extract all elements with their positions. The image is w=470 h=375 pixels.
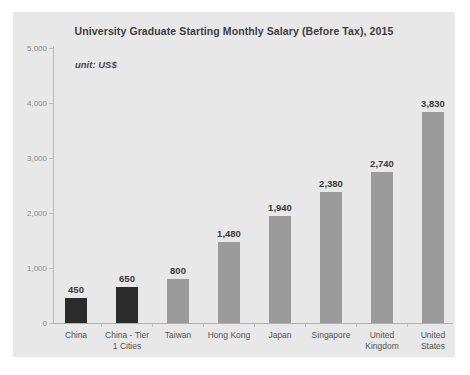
- bar-value-united-kingdom: 2,740: [352, 158, 412, 169]
- x-tick-mark: [152, 323, 153, 327]
- category-line: United: [401, 330, 465, 341]
- category-line: 1 Cities: [95, 341, 159, 352]
- y-tick-label: 0: [13, 319, 47, 328]
- y-tick-label: 5,000: [13, 44, 47, 53]
- bar-singapore[interactable]: [320, 192, 342, 323]
- x-tick-mark: [203, 323, 204, 327]
- category-label-united-states: United States: [401, 330, 465, 352]
- plot-area: 5,000 4,000 3,000 2,000 1,000 0: [53, 12, 455, 357]
- x-axis-line: [53, 323, 453, 324]
- chart-panel: University Graduate Starting Monthly Sal…: [13, 12, 455, 357]
- bar-united-kingdom[interactable]: [371, 172, 393, 323]
- x-tick-mark: [305, 323, 306, 327]
- bar-united-states[interactable]: [422, 112, 444, 323]
- y-axis-line: [53, 46, 54, 324]
- x-tick-mark: [101, 323, 102, 327]
- x-tick-mark: [407, 323, 408, 327]
- bar-hong-kong[interactable]: [218, 242, 240, 323]
- bar-japan[interactable]: [269, 216, 291, 323]
- bar-china-tier-1-cities[interactable]: [116, 287, 138, 323]
- x-tick-mark: [254, 323, 255, 327]
- x-tick-mark: [356, 323, 357, 327]
- bar-china[interactable]: [65, 298, 87, 323]
- bar-value-japan: 1,940: [250, 202, 310, 213]
- bar-value-singapore: 2,380: [301, 178, 361, 189]
- y-tick-label: 2,000: [13, 209, 47, 218]
- bar-value-hong-kong: 1,480: [199, 228, 259, 239]
- bar-value-united-states: 3,830: [403, 98, 463, 109]
- bar-value-taiwan: 800: [148, 265, 208, 276]
- y-tick-label: 1,000: [13, 264, 47, 273]
- bar-value-china: 450: [46, 284, 106, 295]
- bar-taiwan[interactable]: [167, 279, 189, 323]
- y-tick-label: 3,000: [13, 154, 47, 163]
- category-line: States: [401, 341, 465, 352]
- y-tick-label: 4,000: [13, 99, 47, 108]
